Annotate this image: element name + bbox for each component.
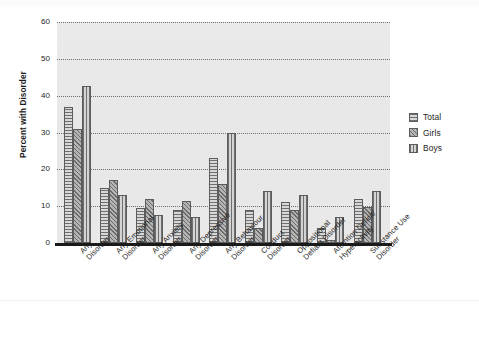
legend-item-boys[interactable]: Boys [409,143,442,153]
x-axis-tick-labels: AnyDisorderAny EmotionalDisorderAny Anxi… [0,0,479,337]
legend-swatch-icon [409,113,418,122]
legend-label: Total [423,112,441,122]
legend-item-girls[interactable]: Girls [409,128,442,138]
legend-item-total[interactable]: Total [409,112,442,122]
legend-swatch-icon [409,128,418,137]
legend-swatch-icon [409,144,418,153]
chart-figure: Percent with Disorder 0102030405060 AnyD… [0,0,479,337]
x-tick-label: AnyDisorder [78,228,112,262]
chart-legend: TotalGirlsBoys [409,112,442,153]
legend-label: Girls [423,128,441,138]
legend-label: Boys [423,143,442,153]
